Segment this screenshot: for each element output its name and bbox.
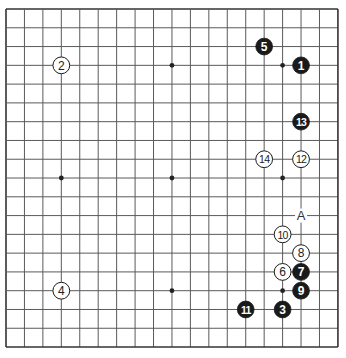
stone-black: 3 [274, 301, 291, 318]
star-point [280, 63, 285, 68]
stone-white: 2 [53, 57, 70, 74]
star-point [280, 176, 285, 181]
stone-black: 7 [293, 264, 310, 281]
star-point [59, 176, 64, 181]
move-number: 2 [58, 59, 65, 73]
stone-black: 9 [293, 282, 310, 299]
star-point [170, 63, 175, 68]
stone-white: 8 [293, 245, 310, 262]
move-number: 6 [279, 265, 286, 279]
move-number: 1 [298, 59, 305, 73]
move-number: 4 [58, 284, 65, 298]
stone-black: 5 [256, 38, 273, 55]
stone-black: 11 [237, 301, 254, 318]
move-number: 5 [261, 40, 268, 54]
stone-white: 14 [256, 151, 273, 168]
star-point [280, 288, 285, 293]
star-point [170, 288, 175, 293]
move-number: 10 [278, 229, 289, 241]
stone-white: 12 [293, 151, 310, 168]
move-number: 11 [241, 304, 251, 316]
move-number: 7 [298, 265, 305, 279]
stone-black: 1 [293, 57, 310, 74]
move-number: 14 [259, 153, 270, 165]
stone-black: 13 [293, 113, 310, 130]
move-number: 9 [298, 284, 305, 298]
star-point [170, 176, 175, 181]
move-number: 12 [296, 153, 307, 165]
move-number: 13 [296, 116, 307, 128]
move-number: 8 [298, 246, 305, 260]
labels-layer: A [295, 208, 307, 223]
stone-white: 6 [274, 264, 291, 281]
point-label: A [297, 208, 306, 223]
move-number: 3 [279, 303, 286, 317]
stone-white: 10 [274, 226, 291, 243]
go-board: 1234567891011121314 A [0, 0, 346, 358]
stone-white: 4 [53, 282, 70, 299]
